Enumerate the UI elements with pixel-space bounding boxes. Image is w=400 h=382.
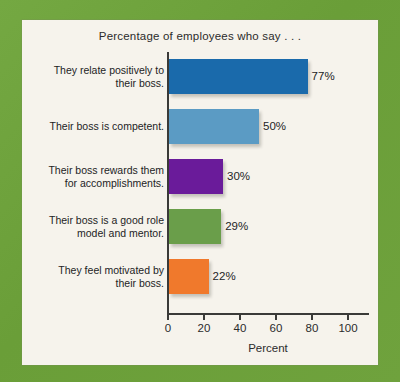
x-tick-mark bbox=[203, 313, 205, 320]
bar-category-label: They relate positively totheir boss. bbox=[24, 64, 164, 89]
bar-row: Their boss rewards themfor accomplishmen… bbox=[22, 159, 378, 194]
x-tick-label: 100 bbox=[338, 322, 357, 334]
bar-category-label-line: their boss. bbox=[24, 277, 164, 290]
x-axis-line bbox=[167, 313, 369, 315]
bar-category-label: They feel motivated bytheir boss. bbox=[24, 264, 164, 289]
x-tick-label: 40 bbox=[234, 322, 247, 334]
x-tick-mark bbox=[347, 313, 349, 320]
bar-category-label-line: model and mentor. bbox=[24, 227, 164, 240]
figure-frame: Percentage of employees who say . . . 02… bbox=[0, 0, 400, 382]
chart-panel: Percentage of employees who say . . . 02… bbox=[22, 20, 378, 365]
bar-category-label: Their boss is competent. bbox=[24, 120, 164, 133]
x-tick-mark bbox=[275, 313, 277, 320]
x-axis-title: Percent bbox=[167, 342, 369, 354]
x-tick-label: 20 bbox=[198, 322, 211, 334]
x-tick-label: 60 bbox=[270, 322, 283, 334]
bar-category-label-line: Their boss is competent. bbox=[24, 120, 164, 133]
bar-category-label-line: They feel motivated by bbox=[24, 264, 164, 277]
chart-title: Percentage of employees who say . . . bbox=[22, 30, 378, 42]
bar-category-label-line: their boss. bbox=[24, 77, 164, 90]
bar[interactable] bbox=[169, 59, 308, 94]
bar-row: Their boss is a good rolemodel and mento… bbox=[22, 209, 378, 244]
x-tick-mark bbox=[167, 313, 169, 320]
bar-value-label: 50% bbox=[263, 120, 286, 132]
bar-value-label: 22% bbox=[213, 270, 236, 282]
bar[interactable] bbox=[169, 259, 209, 294]
bar[interactable] bbox=[169, 109, 259, 144]
x-tick-label: 80 bbox=[306, 322, 319, 334]
bar[interactable] bbox=[169, 209, 221, 244]
bar-category-label-line: Their boss is a good role bbox=[24, 214, 164, 227]
x-tick-mark bbox=[239, 313, 241, 320]
bar-row: Their boss is competent.50% bbox=[22, 109, 378, 144]
bar[interactable] bbox=[169, 159, 223, 194]
x-tick-label: 0 bbox=[165, 322, 171, 334]
bar-category-label-line: Their boss rewards them bbox=[24, 164, 164, 177]
bar-category-label: Their boss rewards themfor accomplishmen… bbox=[24, 164, 164, 189]
plot-area: 020406080100 They relate positively toth… bbox=[22, 52, 378, 320]
x-tick-mark bbox=[311, 313, 313, 320]
bar-row: They feel motivated bytheir boss.22% bbox=[22, 259, 378, 294]
bar-category-label-line: for accomplishments. bbox=[24, 177, 164, 190]
bar-value-label: 77% bbox=[312, 70, 335, 82]
bar-row: They relate positively totheir boss.77% bbox=[22, 59, 378, 94]
bar-value-label: 30% bbox=[227, 170, 250, 182]
bar-category-label-line: They relate positively to bbox=[24, 64, 164, 77]
bar-value-label: 29% bbox=[225, 220, 248, 232]
bar-category-label: Their boss is a good rolemodel and mento… bbox=[24, 214, 164, 239]
